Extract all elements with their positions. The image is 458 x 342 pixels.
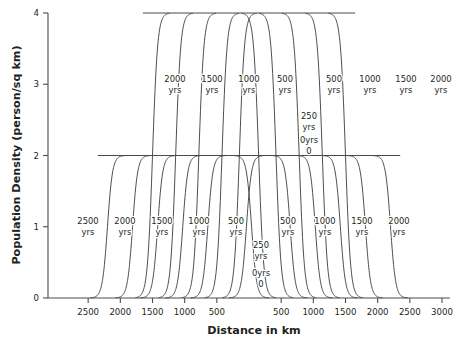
curve-label: 250 [253, 240, 269, 250]
curve-label-unit: yrs [328, 85, 341, 95]
y-tick-label: 0 [34, 293, 39, 303]
x-tick-label: 1000 [302, 307, 324, 317]
curve-label-unit: yrs [206, 85, 219, 95]
curve-label: 1500 [351, 216, 372, 226]
x-tick-label: 3000 [431, 307, 453, 317]
y-tick-label: 3 [34, 79, 39, 89]
tick-labels: 0123425002000150010005005001000150020002… [34, 8, 453, 317]
x-tick-label: 2000 [367, 307, 389, 317]
curve-label-unit: yrs [356, 227, 369, 237]
curve-label: 2500 [77, 216, 98, 226]
curve-label-unit: yrs [282, 227, 295, 237]
curve-label-unit: yrs [193, 227, 206, 237]
curve-annotations: 2000yrs1500yrs1000yrs500yrs500yrs1000yrs… [77, 74, 451, 289]
curve-label: 1000 [359, 74, 380, 84]
curve-label-unit: yrs [82, 227, 95, 237]
curve-label: 1500 [395, 74, 416, 84]
y-tick-label: 4 [34, 8, 39, 18]
curve-label: 2000 [114, 216, 135, 226]
curve-1000-yrs-outer [166, 156, 332, 298]
curve-label-unit: yrs [435, 85, 448, 95]
curve-label-unit: yrs [303, 122, 316, 132]
x-axis-title: Distance in km [207, 324, 301, 337]
y-axis-title: Population Density (person/sq km) [10, 45, 23, 264]
x-tick-label: 1500 [142, 307, 164, 317]
curve-series [91, 13, 408, 298]
curve-label-unit: yrs [243, 85, 256, 95]
curve-label-unit: yrs [169, 85, 182, 95]
y-tick-label: 2 [34, 151, 39, 161]
curve-label: 500 [228, 216, 244, 226]
curve-label: 1000 [188, 216, 209, 226]
x-tick-label: 1500 [335, 307, 357, 317]
curve-label-unit: yrs [364, 85, 377, 95]
x-tick-label: 500 [273, 307, 289, 317]
curve-label-unit: yrs [230, 227, 243, 237]
x-tick-label: 500 [209, 307, 225, 317]
curve-label-unit: 0 [258, 279, 263, 289]
curve-label: 1500 [201, 74, 222, 84]
curve-label-unit: yrs [400, 85, 413, 95]
x-tick-label: 2500 [77, 307, 99, 317]
curve-label-unit: yrs [156, 227, 169, 237]
curve-label-unit: yrs [393, 227, 406, 237]
curve-label-unit: yrs [255, 251, 268, 261]
curve-label: 1000 [314, 216, 335, 226]
curve-label: 500 [277, 74, 293, 84]
y-tick-label: 1 [34, 222, 39, 232]
axes [43, 13, 450, 303]
curve-label: 250 [301, 111, 317, 121]
curve-label: 500 [280, 216, 296, 226]
curve-label-unit: yrs [119, 227, 132, 237]
curve-label-unit: yrs [279, 85, 292, 95]
curve-label-unit: 0 [306, 146, 311, 156]
curve-label: 0yrs [300, 135, 318, 145]
x-tick-label: 2500 [399, 307, 421, 317]
curve-label: 1500 [151, 216, 172, 226]
curve-label: 2000 [388, 216, 409, 226]
curve-label: 1000 [238, 74, 259, 84]
x-tick-label: 1000 [174, 307, 196, 317]
curve-label-unit: yrs [319, 227, 332, 237]
curve-label: 2000 [430, 74, 451, 84]
chart-root: 2000yrs1500yrs1000yrs500yrs500yrs1000yrs… [0, 0, 458, 342]
curve-label: 0yrs [252, 268, 270, 278]
population-density-chart: 2000yrs1500yrs1000yrs500yrs500yrs1000yrs… [0, 0, 458, 342]
x-tick-label: 2000 [109, 307, 131, 317]
curve-label: 500 [326, 74, 342, 84]
curve-label: 2000 [164, 74, 185, 84]
